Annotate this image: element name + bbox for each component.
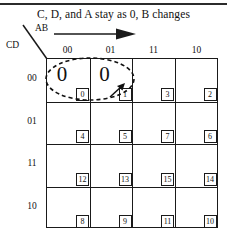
kmap-cell[interactable]: 11 bbox=[132, 187, 175, 230]
cell-index: 3 bbox=[161, 88, 174, 101]
top-divider bbox=[0, 3, 227, 5]
cell-index: 13 bbox=[119, 173, 132, 186]
kmap-cell[interactable]: 0 0 bbox=[47, 59, 90, 102]
cell-index: 6 bbox=[204, 130, 217, 143]
figure-caption: C, D, and A stay as 0, B changes bbox=[0, 7, 227, 21]
kmap-cell[interactable]: 8 bbox=[47, 187, 90, 230]
kmap-cell[interactable]: 3 bbox=[132, 59, 175, 102]
cell-index: 14 bbox=[204, 173, 217, 186]
cell-index: 7 bbox=[161, 130, 174, 143]
column-header-1: 01 bbox=[89, 45, 132, 56]
cell-index: 11 bbox=[161, 215, 174, 228]
cell-value: 0 bbox=[90, 61, 120, 87]
column-header-2: 11 bbox=[132, 45, 175, 56]
row-header-1: 01 bbox=[22, 116, 42, 127]
axis-corner-divider bbox=[22, 24, 48, 60]
kmap-cell[interactable]: 10 bbox=[175, 187, 218, 230]
row-header-2: 11 bbox=[22, 158, 42, 169]
cell-index: 0 bbox=[76, 88, 89, 101]
right-arrow-icon bbox=[54, 28, 136, 40]
cell-index: 2 bbox=[204, 88, 217, 101]
cell-index: 15 bbox=[161, 173, 174, 186]
kmap-cell[interactable]: 5 bbox=[90, 102, 133, 145]
kmap-cell[interactable]: 12 bbox=[47, 144, 90, 187]
kmap-cell[interactable]: 15 bbox=[132, 144, 175, 187]
kmap-cell[interactable]: 9 bbox=[90, 187, 133, 230]
column-header-0: 00 bbox=[46, 45, 89, 56]
kmap-cell[interactable]: 14 bbox=[175, 144, 218, 187]
kmap-cell[interactable]: 2 bbox=[175, 59, 218, 102]
kmap-cell[interactable]: 6 bbox=[175, 102, 218, 145]
kmap-grid: 0 0 0 1 3 2 4 5 7 6 bbox=[46, 58, 218, 228]
row-header-0: 00 bbox=[22, 73, 42, 84]
cell-index: 1 bbox=[119, 88, 132, 101]
kmap-cell[interactable]: 0 1 bbox=[90, 59, 133, 102]
cell-value: 0 bbox=[47, 61, 77, 87]
cell-index: 10 bbox=[204, 215, 217, 228]
kmap-cell[interactable]: 13 bbox=[90, 144, 133, 187]
kmap-cell[interactable]: 7 bbox=[132, 102, 175, 145]
cell-index: 12 bbox=[76, 173, 89, 186]
kmap-cell[interactable]: 4 bbox=[47, 102, 90, 145]
cell-index: 5 bbox=[119, 130, 132, 143]
cell-index: 4 bbox=[76, 130, 89, 143]
row-axis-label: CD bbox=[6, 40, 19, 51]
cell-index: 8 bbox=[76, 215, 89, 228]
cell-index: 9 bbox=[119, 215, 132, 228]
column-header-3: 10 bbox=[175, 45, 218, 56]
karnaugh-map-figure: C, D, and A stay as 0, B changes AB CD 0… bbox=[0, 0, 227, 239]
row-header-3: 10 bbox=[22, 201, 42, 212]
